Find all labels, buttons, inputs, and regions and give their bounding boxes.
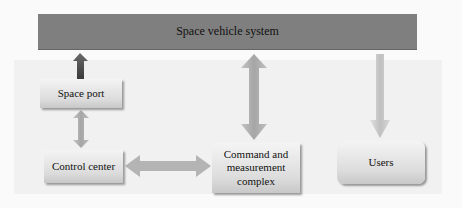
space-port-label: Space port <box>58 87 105 100</box>
arrow-spaceport-to-vehicle <box>73 53 88 79</box>
arrow-command-vehicle <box>241 54 267 140</box>
arrow-vehicle-to-users <box>370 54 390 138</box>
arrow-controlcenter-command <box>125 155 211 177</box>
arrow-spaceport-controlcenter <box>73 110 89 148</box>
control-center-node: Control center <box>44 150 123 183</box>
command-complex-node: Command and measurement complex <box>212 143 300 193</box>
command-complex-label: Command and measurement complex <box>218 148 294 188</box>
users-node: Users <box>337 141 425 184</box>
space-vehicle-system-label: Space vehicle system <box>176 24 279 39</box>
space-port-node: Space port <box>40 79 122 108</box>
users-label: Users <box>368 156 393 169</box>
space-vehicle-system-bar: Space vehicle system <box>38 14 417 50</box>
control-center-label: Control center <box>52 160 115 173</box>
